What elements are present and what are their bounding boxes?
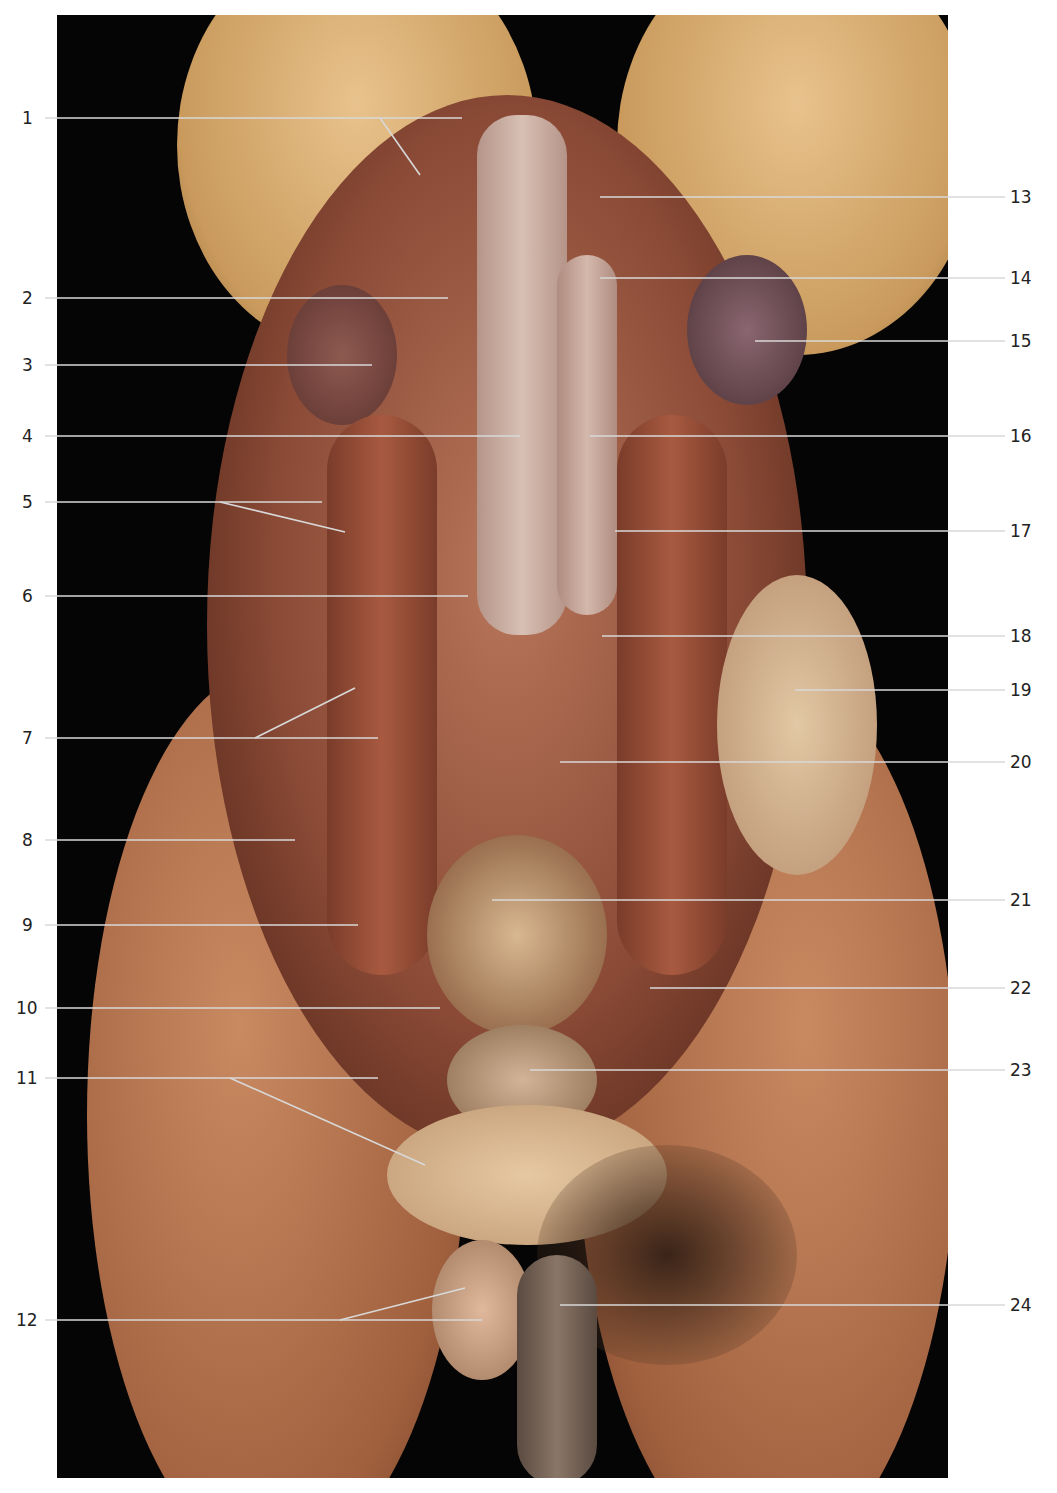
- penis-region: [517, 1255, 597, 1478]
- label-16: 16: [1010, 426, 1040, 446]
- label-3: 3: [22, 355, 44, 375]
- psoas-right-region: [617, 415, 727, 975]
- label-11: 11: [16, 1068, 38, 1088]
- label-20: 20: [1010, 752, 1040, 772]
- label-12: 12: [16, 1310, 38, 1330]
- label-5: 5: [22, 492, 44, 512]
- psoas-left-region: [327, 415, 437, 975]
- label-22: 22: [1010, 978, 1040, 998]
- label-6: 6: [22, 586, 44, 606]
- label-10: 10: [16, 998, 38, 1018]
- aorta-region: [477, 115, 567, 635]
- rectum-region: [427, 835, 607, 1035]
- right-kidney-region: [687, 255, 807, 405]
- vena-cava-region: [557, 255, 617, 615]
- label-2: 2: [22, 288, 44, 308]
- left-kidney-region: [287, 285, 397, 425]
- label-9: 9: [22, 915, 44, 935]
- label-14: 14: [1010, 268, 1040, 288]
- label-17: 17: [1010, 521, 1040, 541]
- label-1: 1: [22, 108, 44, 128]
- label-24: 24: [1010, 1295, 1040, 1315]
- label-18: 18: [1010, 626, 1040, 646]
- label-8: 8: [22, 830, 44, 850]
- iliac-fossa-right-region: [717, 575, 877, 875]
- label-23: 23: [1010, 1060, 1040, 1080]
- dissection-photo: [57, 15, 948, 1478]
- label-7: 7: [22, 728, 44, 748]
- label-21: 21: [1010, 890, 1040, 910]
- label-19: 19: [1010, 680, 1040, 700]
- label-13: 13: [1010, 187, 1040, 207]
- label-4: 4: [22, 426, 44, 446]
- label-15: 15: [1010, 331, 1040, 351]
